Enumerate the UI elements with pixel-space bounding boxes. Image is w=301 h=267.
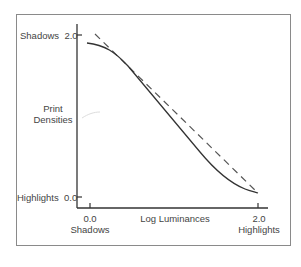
y-bottom-label: Highlights 0.0	[17, 192, 77, 203]
solid-curve-series	[87, 43, 258, 193]
y-top-value: 2.0	[64, 30, 77, 41]
x-right-value: 2.0	[232, 213, 286, 224]
y-top-label: Shadows 2.0	[20, 30, 78, 41]
y-axis-title: Print Densities	[28, 103, 78, 125]
y-bottom-value: 0.0	[64, 192, 77, 203]
faint-mark	[82, 112, 100, 118]
x-left-value: 0.0	[68, 213, 112, 224]
y-bottom-pre-label: Highlights	[17, 192, 59, 203]
x-left-label: 0.0 Shadows	[68, 213, 112, 235]
x-right-sublabel: Highlights	[232, 224, 286, 235]
x-right-label: 2.0 Highlights	[232, 213, 286, 235]
y-title-line1: Print	[28, 103, 78, 114]
y-title-line2: Densities	[28, 114, 78, 125]
x-left-sublabel: Shadows	[68, 224, 112, 235]
y-top-pre-label: Shadows	[20, 30, 59, 41]
x-axis-title: Log Luminances	[130, 213, 220, 224]
